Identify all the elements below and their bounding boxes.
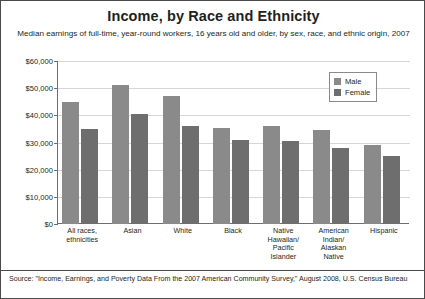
source-note: Source: "Income, Earnings, and Poverty D… <box>9 275 419 283</box>
y-axis-tick-label: $20,000 <box>5 165 53 174</box>
x-axis-tick-label: Hispanic <box>359 227 409 236</box>
legend-label: Female <box>345 88 370 97</box>
chart-figure: Income, by Race and Ethnicity Median ear… <box>0 0 425 299</box>
y-axis-tick-label: $40,000 <box>5 111 53 120</box>
chart-legend: MaleFemale <box>329 72 377 102</box>
x-axis-tick-label: Asian <box>107 227 157 236</box>
bar-group <box>107 61 157 224</box>
chart-title: Income, by Race and Ethnicity <box>1 8 425 24</box>
bar-female <box>232 140 249 224</box>
x-axis-label-line: Hispanic <box>359 227 409 236</box>
legend-item-female: Female <box>334 87 370 98</box>
chart-subtitle: Median earnings of full-time, year-round… <box>1 29 425 38</box>
bar-female <box>282 141 299 224</box>
y-axis-tick <box>54 224 58 225</box>
y-axis-tick-label: $60,000 <box>5 57 53 66</box>
x-axis-tick-label: Black <box>208 227 258 236</box>
y-axis-tick-label: $10,000 <box>5 192 53 201</box>
bar-group <box>208 61 258 224</box>
x-axis-label-line: ethnicities <box>57 236 107 245</box>
bar-male <box>163 96 180 224</box>
y-axis-tick-label: $30,000 <box>5 138 53 147</box>
x-axis-label-line: Islander <box>258 253 308 262</box>
x-axis-tick-label: All races,ethnicities <box>57 227 107 244</box>
bar-group <box>57 61 107 224</box>
bar-female <box>383 156 400 224</box>
x-axis-label-line: Black <box>208 227 258 236</box>
legend-swatch-icon <box>334 89 341 96</box>
x-axis-tick-label: AmericanIndian/AlaskanNative <box>308 227 358 261</box>
bar-female <box>131 114 148 224</box>
x-axis-label-line: Native <box>308 253 358 262</box>
bar-female <box>182 126 199 224</box>
y-axis-tick-label: $50,000 <box>5 84 53 93</box>
legend-item-male: Male <box>334 76 370 87</box>
bar-group <box>258 61 308 224</box>
x-axis-tick-label: NativeHawaiian/PacificIslander <box>258 227 308 261</box>
bar-female <box>81 129 98 224</box>
legend-swatch-icon <box>334 78 341 85</box>
bar-male <box>213 128 230 224</box>
legend-label: Male <box>345 77 361 86</box>
y-axis-tick-labels: $60,000$50,000$40,000$30,000$20,000$10,0… <box>1 61 53 224</box>
x-axis-tick-label: White <box>158 227 208 236</box>
bar-male <box>263 126 280 224</box>
bar-male <box>313 130 330 224</box>
bar-male <box>62 102 79 224</box>
y-axis-tick-label: $0 <box>5 220 53 229</box>
x-axis-label-line: Asian <box>107 227 157 236</box>
bar-female <box>332 148 349 224</box>
bar-male <box>112 85 129 224</box>
bar-group <box>158 61 208 224</box>
x-axis-tick-labels: All races,ethnicitiesAsianWhiteBlackNati… <box>57 227 409 272</box>
source-divider <box>1 270 424 271</box>
x-axis-label-line: White <box>158 227 208 236</box>
bar-male <box>364 145 381 224</box>
